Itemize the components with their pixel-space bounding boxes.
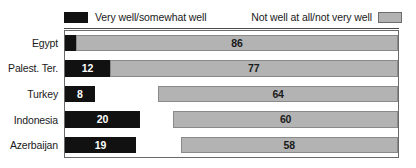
bar-segment-very-well: 20 xyxy=(65,111,140,128)
legend-entry-not-well: Not well at all/not very well xyxy=(251,8,402,26)
bar-segment-not-well: 86 xyxy=(76,35,398,52)
bar-row-track: 864 xyxy=(65,81,398,107)
bar-value-very-well: 19 xyxy=(95,140,106,151)
bar-value-not-well: 77 xyxy=(248,63,259,74)
bar-row-label: Palest. Ter. xyxy=(0,56,58,82)
chart-legend: Very well/somewhat well Not well at all/… xyxy=(0,8,416,26)
bar-value-very-well: 12 xyxy=(82,63,93,74)
bar-row: Azerbaijan1958 xyxy=(0,132,416,158)
bar-row: Egypt1686 xyxy=(0,30,416,56)
legend-label-not-well: Not well at all/not very well xyxy=(251,11,372,23)
bar-segment-not-well: 64 xyxy=(158,86,398,103)
bar-row: Palest. Ter.1277 xyxy=(0,56,416,82)
bar-value-not-well: 86 xyxy=(231,38,242,49)
bar-segment-not-well: 77 xyxy=(110,60,398,77)
bar-segment-very-well: 8 xyxy=(65,86,95,103)
bar-value-not-well: 58 xyxy=(284,140,295,151)
bar-row-label: Azerbaijan xyxy=(0,132,58,158)
bar-row-label: Egypt xyxy=(0,30,58,56)
legend-divider-rule xyxy=(64,28,399,29)
bar-row: Indonesia2060 xyxy=(0,107,416,133)
bar-segment-very-well: 12 xyxy=(65,60,110,77)
bar-segment-not-well: 60 xyxy=(173,111,398,128)
bar-row-track: 1958 xyxy=(65,132,398,158)
bar-segment-very-well: 19 xyxy=(65,137,136,154)
bar-value-very-well: 20 xyxy=(97,114,108,125)
bar-row-label: Indonesia xyxy=(0,107,58,133)
legend-swatch-dark-icon xyxy=(64,12,88,23)
legend-swatch-light-icon xyxy=(378,12,402,23)
legend-entry-very-well: Very well/somewhat well xyxy=(64,8,207,26)
bar-row-track: 1277 xyxy=(65,56,398,82)
bar-value-not-well: 60 xyxy=(280,114,291,125)
bar-row-track: 1686 xyxy=(65,30,398,56)
legend-label-very-well: Very well/somewhat well xyxy=(95,11,207,23)
bar-row-label: Turkey xyxy=(0,81,58,107)
bar-value-very-well: 8 xyxy=(77,89,83,100)
bar-segment-not-well: 58 xyxy=(181,137,398,154)
bar-row-track: 2060 xyxy=(65,107,398,133)
chart-container: Very well/somewhat well Not well at all/… xyxy=(0,0,416,168)
bar-row: Turkey864 xyxy=(0,81,416,107)
bar-rows: Egypt1686Palest. Ter.1277Turkey864Indone… xyxy=(0,30,416,158)
bar-value-not-well: 64 xyxy=(272,89,283,100)
